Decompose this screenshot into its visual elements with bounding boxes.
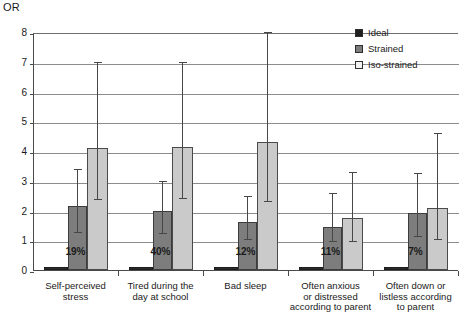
- error-bar-cap-lower: [349, 241, 357, 242]
- error-bar-cap-upper: [94, 62, 102, 63]
- error-bar-cap-lower: [244, 239, 252, 240]
- legend-item-iso-strained[interactable]: Iso-strained: [355, 58, 418, 71]
- category-label-line: Tired during the: [114, 281, 207, 292]
- legend-swatch-strained: [355, 45, 363, 53]
- error-bar-cap-upper: [179, 62, 187, 63]
- x-axis-tick-mark: [118, 271, 119, 276]
- y-axis-tick-label: 2: [5, 207, 27, 217]
- y-axis-tick-label: 3: [5, 177, 27, 187]
- error-bar-cap-lower: [179, 198, 187, 199]
- prevalence-label: 12%: [203, 246, 288, 257]
- error-bar-cap-upper: [434, 133, 442, 134]
- error-bar-cap-upper: [74, 169, 82, 170]
- error-bar-cap-upper: [414, 173, 422, 174]
- category-label-line: stress: [29, 292, 122, 303]
- category-label-line: Bad sleep: [199, 281, 292, 292]
- error-bar: [77, 169, 78, 233]
- prevalence-label: 40%: [118, 246, 203, 257]
- category-label: Tired during theday at school: [114, 281, 207, 302]
- x-axis-tick-mark: [288, 271, 289, 276]
- error-bar-cap-lower: [159, 233, 167, 234]
- category-label-line: Often down or: [369, 281, 461, 292]
- category-label-line: according to parent: [284, 302, 377, 313]
- y-axis-tick-label: 5: [5, 117, 27, 127]
- error-bar: [267, 32, 268, 202]
- y-axis-title: OR: [3, 1, 20, 13]
- category-label-line: to parent: [369, 302, 461, 313]
- bar-ideal[interactable]: [44, 267, 68, 270]
- bar-group: [34, 32, 119, 270]
- legend-swatch-ideal: [355, 29, 363, 37]
- error-bar-cap-lower: [329, 241, 337, 242]
- legend: Ideal Strained Iso-strained: [355, 26, 418, 74]
- category-label: Self-perceivedstress: [29, 281, 122, 302]
- error-bar: [162, 181, 163, 235]
- legend-item-strained[interactable]: Strained: [355, 42, 418, 55]
- error-bar-cap-lower: [74, 232, 82, 233]
- error-bar: [97, 62, 98, 200]
- error-bar: [352, 172, 353, 242]
- error-bar: [332, 193, 333, 242]
- legend-swatch-iso-strained: [355, 61, 363, 69]
- legend-label-iso-strained: Iso-strained: [368, 59, 418, 70]
- y-axis-tick-label: 0: [5, 266, 27, 276]
- legend-label-strained: Strained: [368, 43, 403, 54]
- error-bar-cap-upper: [159, 181, 167, 182]
- error-bar: [437, 133, 438, 240]
- category-label-line: Often anxious: [284, 281, 377, 292]
- legend-label-ideal: Ideal: [368, 27, 389, 38]
- category-label: Bad sleep: [199, 281, 292, 292]
- y-axis-tick-label: 1: [5, 236, 27, 246]
- bar-group: [204, 32, 289, 270]
- category-label: Often anxiousor distressedaccording to p…: [284, 281, 377, 313]
- bar-ideal[interactable]: [299, 267, 323, 270]
- error-bar-cap-lower: [414, 236, 422, 237]
- y-axis-tick-label: 6: [5, 88, 27, 98]
- bar-ideal[interactable]: [214, 267, 238, 270]
- bar-ideal[interactable]: [384, 267, 408, 270]
- or-bar-chart: OR 012345678 19%40%12%11%7% Self-perceiv…: [0, 0, 461, 317]
- error-bar: [182, 62, 183, 199]
- error-bar: [417, 173, 418, 237]
- x-axis-tick-mark: [373, 271, 374, 276]
- prevalence-label: 7%: [373, 246, 458, 257]
- prevalence-label: 11%: [288, 246, 373, 257]
- category-label-line: Self-perceived: [29, 281, 122, 292]
- category-label: Often down orlistless accordingto parent: [369, 281, 461, 313]
- y-axis-tick-mark: [30, 272, 34, 273]
- x-axis-tick-mark: [203, 271, 204, 276]
- error-bar-cap-upper: [349, 172, 357, 173]
- bar-group: [119, 32, 204, 270]
- error-bar-cap-upper: [329, 193, 337, 194]
- error-bar-cap-upper: [244, 196, 252, 197]
- bar-ideal[interactable]: [129, 267, 153, 270]
- y-axis-tick-label: 7: [5, 58, 27, 68]
- error-bar-cap-lower: [434, 239, 442, 240]
- legend-item-ideal[interactable]: Ideal: [355, 26, 418, 39]
- y-axis-tick-label: 8: [5, 28, 27, 38]
- category-label-line: day at school: [114, 292, 207, 303]
- error-bar-cap-lower: [264, 201, 272, 202]
- prevalence-label: 19%: [33, 246, 118, 257]
- error-bar: [247, 196, 248, 241]
- y-axis-tick-label: 4: [5, 147, 27, 157]
- error-bar-cap-upper: [264, 32, 272, 33]
- x-axis-tick-mark-end: [458, 271, 459, 276]
- error-bar-cap-lower: [94, 199, 102, 200]
